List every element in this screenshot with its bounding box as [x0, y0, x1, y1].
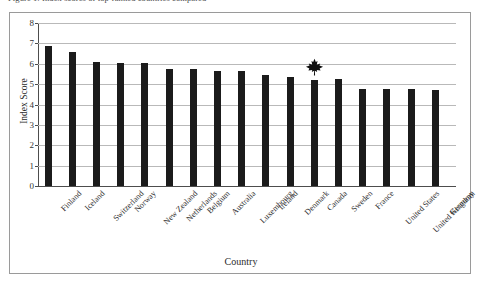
y-axis-tick-label: 0 [30, 182, 35, 191]
x-axis-category-label: Iceland [83, 189, 106, 212]
plot-area: 012345678 [38, 23, 456, 186]
x-axis-line [38, 186, 456, 187]
bar[interactable] [69, 52, 76, 186]
x-axis-category-label: Germany [448, 189, 476, 217]
gridline [38, 125, 456, 126]
bar[interactable] [238, 71, 245, 186]
figure-frame: Index Score 012345678 FinlandIcelandSwit… [9, 12, 471, 274]
y-axis-tick-label: 5 [30, 80, 35, 89]
bar[interactable] [432, 90, 439, 186]
y-axis-tick-label: 7 [30, 39, 35, 48]
y-axis-tick-label: 1 [30, 161, 35, 170]
y-axis-tick-mark [35, 186, 38, 187]
gridline [38, 105, 456, 106]
y-axis-tick-mark [35, 125, 38, 126]
y-axis-tick-mark [35, 23, 38, 24]
gridline [38, 145, 456, 146]
gridline [38, 84, 456, 85]
bar[interactable] [190, 69, 197, 186]
x-axis-category-labels: FinlandIcelandSwitzerlandNorwayNew Zeala… [38, 189, 456, 251]
gridline [38, 43, 456, 44]
bar[interactable] [45, 46, 52, 186]
maple-leaf-icon [305, 57, 324, 77]
bar[interactable] [311, 80, 318, 186]
bar[interactable] [408, 89, 415, 186]
x-axis-category-label: France [373, 189, 395, 211]
y-axis-tick-mark [35, 84, 38, 85]
x-axis-title: Country [10, 256, 472, 267]
x-axis-category-label: Australia [230, 189, 258, 217]
bar[interactable] [335, 79, 342, 186]
y-axis-tick-mark [35, 105, 38, 106]
y-axis-tick-mark [35, 145, 38, 146]
bar[interactable] [214, 71, 221, 186]
y-axis-tick-mark [35, 64, 38, 65]
gridline [38, 23, 456, 24]
x-axis-category-label: Ireland [277, 189, 300, 212]
x-axis-category-label: Finland [59, 189, 83, 213]
y-axis-tick-label: 4 [30, 100, 35, 109]
bar[interactable] [262, 75, 269, 186]
bar[interactable] [166, 69, 173, 186]
bar[interactable] [141, 63, 148, 186]
y-axis-tick-label: 6 [30, 59, 35, 68]
y-axis-tick-label: 8 [30, 19, 35, 28]
bar[interactable] [383, 89, 390, 186]
y-axis-tick-label: 3 [30, 120, 35, 129]
figure-caption-strip: Figure 1: Index scores of top-ranked cou… [0, 0, 480, 9]
y-axis-tick-mark [35, 43, 38, 44]
gridline [38, 64, 456, 65]
figure-caption-text: Figure 1: Index scores of top-ranked cou… [8, 0, 206, 3]
x-axis-category-label: Sweden [350, 189, 375, 214]
bar[interactable] [287, 77, 294, 186]
y-axis-tick-mark [35, 166, 38, 167]
bar[interactable] [93, 62, 100, 186]
y-axis-tick-label: 2 [30, 141, 35, 150]
bar[interactable] [359, 89, 366, 186]
x-axis-category-label: United States [404, 189, 441, 226]
y-axis-title: Index Score [19, 78, 29, 124]
bar[interactable] [117, 63, 124, 186]
gridline [38, 166, 456, 167]
